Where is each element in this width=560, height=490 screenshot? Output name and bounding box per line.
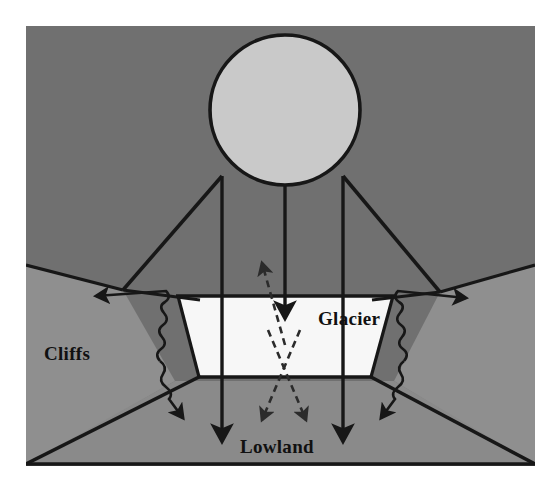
radiation-source-circle <box>210 35 360 185</box>
figure-root: Cliffs Glacier Lowland <box>0 0 560 490</box>
label-lowland: Lowland <box>240 436 314 457</box>
label-cliffs: Cliffs <box>44 343 90 364</box>
label-glacier: Glacier <box>318 308 381 329</box>
glacier-cross-section-diagram: Cliffs Glacier Lowland <box>0 0 560 490</box>
